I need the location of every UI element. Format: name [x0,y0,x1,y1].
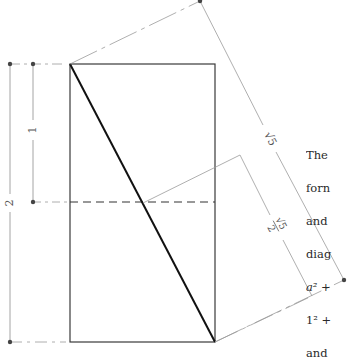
caption-line: diag [306,249,357,260]
caption-line: forn [306,183,357,194]
label-1: 1 [26,127,39,134]
extension-lines [10,64,70,342]
label-sqrt5-over-2: √5 2 [264,215,289,237]
caption-line: The [306,150,357,161]
caption-line: a² + [306,282,357,293]
caption-line: and [306,348,357,359]
diagonal-line [70,64,215,342]
caption-line: 1² + [306,315,357,326]
svg-text:2: 2 [265,223,278,234]
caption-line: and [306,216,357,227]
label-sqrt5: √5 [261,130,279,148]
dimension-line-sqrt5-over-2 [143,155,312,342]
caption-text: The forn and diag a² + 1² + and [306,128,357,361]
label-2: 2 [3,200,16,207]
